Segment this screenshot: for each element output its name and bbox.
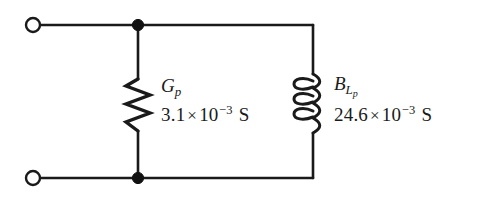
top-left-terminal-circle-icon (26, 18, 40, 32)
inductor-coil-symbol (294, 74, 320, 133)
circuit-diagram-canvas: Gp 3.1×10−3S BLp 24.6×10−3S (0, 0, 493, 204)
resistor-zigzag-symbol (126, 79, 150, 131)
circuit-schematic-drawing (0, 0, 493, 204)
top-junction-dot-icon (132, 19, 143, 30)
bottom-left-terminal-circle-icon (26, 171, 40, 185)
bottom-junction-dot-icon (132, 172, 143, 183)
